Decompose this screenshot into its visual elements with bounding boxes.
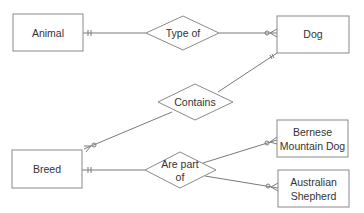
relationship-label: Contains <box>174 96 215 108</box>
connector-breed-arepartof <box>82 167 145 173</box>
entity-australian-shepherd[interactable]: Australian Shepherd <box>278 170 349 207</box>
relationship-label: Type of <box>166 27 201 39</box>
connector-animal-typeof <box>83 30 146 36</box>
entity-label: Dog <box>303 28 322 40</box>
entity-dog[interactable]: Dog <box>277 16 349 53</box>
entity-label-line2: Shepherd <box>291 190 337 202</box>
er-diagram: Animal Dog Breed Bernese Mountain Dog Au… <box>0 0 364 213</box>
entity-label-line1: Australian <box>290 176 337 188</box>
connector-arepartof-bernese <box>203 137 277 163</box>
entity-bernese-mountain-dog[interactable]: Bernese Mountain Dog <box>277 120 348 157</box>
relationship-type-of[interactable]: Type of <box>146 16 219 50</box>
connector-dog-contains <box>218 53 277 92</box>
connector-typeof-dog <box>219 29 277 37</box>
connector-arepartof-australian <box>205 176 278 191</box>
entity-label-line2: Mountain Dog <box>280 140 346 152</box>
relationship-label-line1: Are part <box>161 158 198 170</box>
relationship-are-part-of[interactable]: Are part of <box>145 152 216 188</box>
crowfoot-icon <box>271 183 278 187</box>
entity-animal[interactable]: Animal <box>13 14 83 51</box>
entity-label: Animal <box>32 27 64 39</box>
entity-label-line1: Bernese <box>293 126 332 138</box>
relationship-label-line2: of <box>176 171 185 183</box>
connector-contains-breed <box>84 112 172 152</box>
entity-breed[interactable]: Breed <box>12 150 82 188</box>
crowfoot-icon <box>270 29 277 33</box>
entity-label: Breed <box>33 163 61 175</box>
